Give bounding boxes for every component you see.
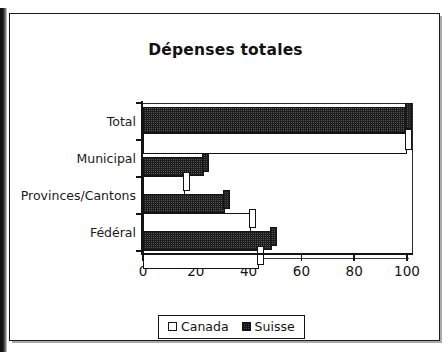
bar-total-canada[interactable] (143, 133, 407, 154)
scan-top-margin (0, 0, 448, 9)
legend-label-suisse: Suisse (255, 319, 295, 334)
bar-federal-suisse[interactable] (143, 231, 272, 250)
category-tick (136, 250, 142, 252)
bar-total-canada-side (405, 129, 412, 150)
scan-edge-artifact (0, 8, 7, 352)
category-label-federal: Fédéral (12, 225, 136, 240)
legend-item-canada[interactable]: Canada (168, 319, 229, 334)
bar-provinces-cantons-canada-side (249, 209, 256, 228)
chart-figure: Dépenses totales Total Municipal Provinc… (9, 13, 440, 341)
value-tick (406, 255, 408, 261)
value-tick (353, 255, 355, 261)
category-tick (136, 213, 142, 215)
chart-legend: Canada Suisse (158, 315, 305, 339)
plot-back-wall-top (143, 103, 413, 104)
value-tick-label: 80 (331, 263, 377, 279)
category-tick (136, 139, 142, 141)
category-tick (136, 176, 142, 178)
hatched-square-icon (242, 322, 251, 331)
bar-provinces-cantons-canada[interactable] (143, 213, 251, 232)
bar-municipal-suisse-side (202, 153, 209, 172)
category-label-total: Total (12, 114, 136, 129)
category-tick (136, 102, 142, 104)
bar-federal-suisse-side (270, 227, 277, 246)
hollow-square-icon (168, 322, 177, 331)
category-label-municipal: Municipal (12, 151, 136, 166)
value-axis-line-overlay (141, 253, 413, 255)
frame-shadow-right (440, 16, 442, 343)
value-tick (301, 255, 303, 261)
bar-municipal-canada[interactable] (143, 176, 185, 195)
legend-label-canada: Canada (181, 319, 229, 334)
category-label-provinces-cantons: Provinces/Cantons (12, 188, 136, 203)
value-tick-label: 100 (384, 263, 430, 279)
bar-municipal-canada-side (183, 172, 190, 191)
bar-municipal-suisse[interactable] (143, 157, 204, 176)
category-axis-labels: Total Municipal Provinces/Cantons Fédéra… (10, 14, 136, 342)
bar-provinces-cantons-suisse[interactable] (143, 194, 225, 213)
bar-federal-canada-side (257, 246, 264, 265)
value-tick-label: 60 (278, 263, 324, 279)
legend-item-suisse[interactable]: Suisse (242, 319, 295, 334)
bar-total-suisse-side (405, 103, 412, 129)
bar-provinces-cantons-suisse-side (223, 190, 230, 209)
bar-total-suisse[interactable] (143, 107, 407, 133)
